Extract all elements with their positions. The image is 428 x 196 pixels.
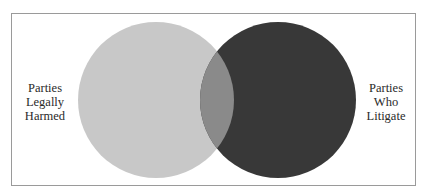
label-line: Parties bbox=[351, 81, 421, 95]
label-parties-legally-harmed: Parties Legally Harmed bbox=[10, 81, 80, 123]
label-line: Parties bbox=[10, 81, 80, 95]
label-line: Litigate bbox=[351, 109, 421, 123]
label-line: Legally bbox=[10, 95, 80, 109]
label-line: Who bbox=[351, 95, 421, 109]
label-parties-who-litigate: Parties Who Litigate bbox=[351, 81, 421, 123]
label-line: Harmed bbox=[10, 109, 80, 123]
